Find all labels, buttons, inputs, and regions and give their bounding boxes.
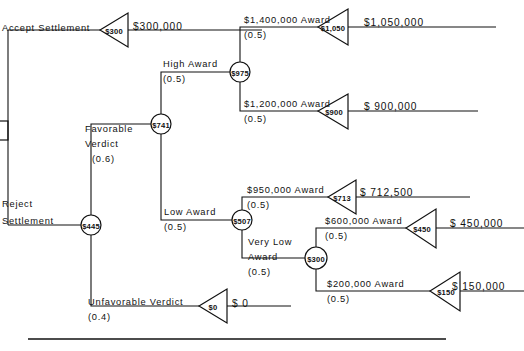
unfavorable-verdict-probability: (0.4) [88, 312, 111, 323]
award-600-payoff: $ 450,000 [450, 218, 503, 229]
award-200-probability: (0.5) [327, 294, 350, 305]
very-low-award-label-line2: Award [248, 252, 278, 263]
award-950-probability: (0.5) [247, 200, 270, 211]
award-1400-label: $1,400,000 Award [244, 15, 331, 26]
accept-settlement-payoff: $300,000 [133, 21, 183, 32]
award-1400-payoff: $1,050,000 [364, 17, 424, 28]
award-200-label: $200,000 Award [327, 279, 405, 290]
favorable-verdict-label-line1: Favorable [85, 124, 133, 135]
award-1200-label: $1,200,000 Award [244, 99, 331, 110]
chance-node-300-value: $300 [307, 255, 325, 264]
chance-node-741-value: $741 [152, 121, 170, 130]
award-1400-endpoint-value: $1,050 [321, 24, 345, 33]
very-low-award-label-line1: Very Low [248, 237, 292, 248]
low-award-label: Low Award [164, 207, 216, 218]
unfavorable-verdict-payoff: $ 0 [232, 298, 249, 309]
reject-settlement-label-line1: Reject [2, 199, 33, 210]
chance-node-445-value: $445 [82, 222, 100, 231]
low-award-probability: (0.5) [164, 222, 187, 233]
very-low-award-probability: (0.5) [248, 267, 271, 278]
award-1400-probability: (0.5) [244, 30, 267, 41]
high-award-label: High Award [163, 59, 218, 70]
award-600-endpoint-value: $450 [413, 225, 431, 234]
favorable-verdict-label-line2: Verdict [85, 139, 119, 150]
award-600-probability: (0.5) [325, 231, 348, 242]
decision-tree-canvas [0, 0, 524, 351]
high-award-probability: (0.5) [163, 74, 186, 85]
chance-node-975-value: $975 [231, 69, 249, 78]
root-decision-node[interactable] [0, 121, 8, 140]
accept-settlement-label: Accept Settlement [2, 23, 90, 34]
award-1200-probability: (0.5) [244, 114, 267, 125]
award-200-payoff: $ 150,000 [452, 281, 505, 292]
unfavorable-verdict-endpoint-value: $0 [209, 303, 218, 312]
award-200-endpoint-value: $150 [437, 288, 455, 297]
award-1200-payoff: $ 900,000 [364, 101, 417, 112]
reject-settlement-label-line2: Settlement [2, 216, 54, 227]
unfavorable-verdict-branch[interactable] [91, 235, 199, 306]
award-600-label: $600,000 Award [325, 216, 403, 227]
award-950-label: $950,000 Award [247, 185, 325, 196]
award-950-endpoint-value: $713 [333, 194, 351, 203]
award-1200-endpoint-value: $900 [325, 108, 343, 117]
decision-tree-diagram: Accept Settlement $300,000 $300 Reject S… [0, 0, 524, 351]
favorable-verdict-probability: (0.6) [92, 154, 115, 165]
favorable-verdict-branch[interactable] [91, 124, 151, 215]
accept-settlement-endpoint-value: $300 [105, 27, 123, 36]
award-950-payoff: $ 712,500 [360, 187, 413, 198]
unfavorable-verdict-label: Unfavorable Verdict [88, 297, 183, 308]
chance-node-507-value: $507 [233, 217, 251, 226]
